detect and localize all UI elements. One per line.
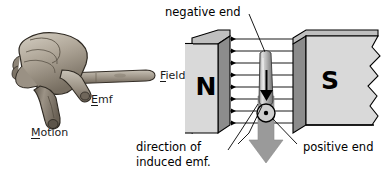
- south-side-face: [293, 36, 306, 133]
- label-direction-of: direction of: [136, 140, 202, 154]
- index-finger-shading: [114, 74, 126, 78]
- south-front-face-torn: [306, 36, 380, 125]
- label-field: Field: [160, 69, 185, 82]
- middle-fingertip: [81, 92, 90, 100]
- label-motion: Motion: [31, 126, 68, 139]
- south-pole-label: S: [321, 66, 339, 95]
- positive-terminal-symbol: [257, 104, 275, 122]
- label-positive-end: positive end: [303, 140, 373, 154]
- north-extension: [185, 44, 193, 133]
- physics-diagram-svg: Field Emf Motion: [0, 0, 388, 176]
- figure-canvas: Field Emf Motion: [0, 0, 388, 176]
- north-pole-label: N: [196, 72, 217, 101]
- north-side-face: [218, 36, 230, 133]
- magnet-south: S: [293, 30, 380, 133]
- label-emf: Emf: [91, 93, 114, 106]
- conductor-rod: [259, 51, 273, 107]
- magnet-north: N: [185, 30, 230, 133]
- label-negative-end: negative end: [165, 5, 241, 19]
- terminal-dot: [264, 111, 268, 115]
- label-induced-emf: induced emf.: [136, 155, 211, 169]
